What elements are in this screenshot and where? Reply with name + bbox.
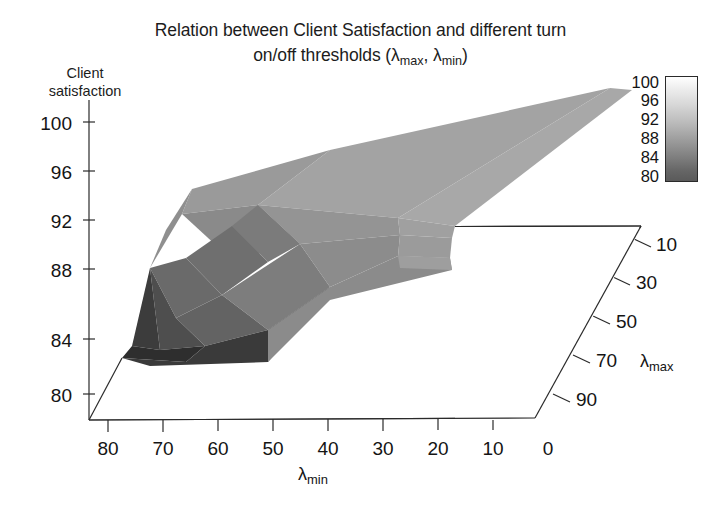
colorbar-tick-label-80: 80 [619, 167, 659, 186]
surface-plot-figure: Relation between Client Satisfaction and… [0, 0, 721, 512]
y-tick-label-10: 10 [656, 234, 677, 256]
colorbar-tick-label-84: 84 [619, 148, 659, 167]
x-tick-label-30: 30 [363, 438, 403, 460]
x-tick-label-40: 40 [308, 438, 348, 460]
y-axis-title: λmax [640, 351, 673, 374]
z-tick-label-92: 92 [20, 211, 72, 233]
plot-canvas [0, 0, 721, 512]
z-tick-label-100: 100 [20, 113, 72, 135]
x-tick-label-0: 0 [528, 438, 568, 460]
x-tick-label-10: 10 [473, 438, 513, 460]
x-tick-label-70: 70 [143, 438, 183, 460]
colorbar-gradient [665, 76, 698, 182]
z-tick-label-88: 88 [20, 260, 72, 282]
surface-facet-ridge-upper [150, 189, 192, 268]
x-tick-label-50: 50 [253, 438, 293, 460]
base-left-diagonal [89, 358, 122, 420]
y-axis-lambda-subscript: max [649, 359, 673, 374]
x-axis-lambda-subscript: min [307, 472, 328, 487]
colorbar-tick-label-100: 100 [619, 73, 659, 92]
x-tick-label-80: 80 [88, 438, 128, 460]
surface-facet-front-right [398, 235, 452, 258]
y-tick-label-50: 50 [616, 311, 637, 333]
z-tick-label-84: 84 [20, 330, 72, 352]
surface-facet-rim-right [398, 256, 452, 270]
y-tick-50 [593, 316, 610, 324]
x-tick-label-20: 20 [418, 438, 458, 460]
y-tick-70 [573, 355, 590, 363]
x-axis-title: λmin [298, 464, 328, 487]
y-tick-90 [553, 394, 570, 402]
colorbar-tick-label-88: 88 [619, 129, 659, 148]
base-clear-mask [455, 228, 641, 420]
y-axis-lambda-symbol: λ [640, 351, 649, 371]
z-tick-label-96: 96 [20, 162, 72, 184]
y-tick-10 [634, 239, 651, 247]
base-back-edge-overlay [455, 226, 641, 227]
x-axis-lambda-symbol: λ [298, 464, 307, 484]
x-tick-label-60: 60 [198, 438, 238, 460]
y-tick-label-70: 70 [596, 350, 617, 372]
y-tick-30 [613, 277, 630, 285]
y-tick-label-30: 30 [636, 272, 657, 294]
y-tick-label-90: 90 [576, 389, 597, 411]
z-tick-label-80: 80 [20, 385, 72, 407]
colorbar-tick-label-92: 92 [619, 110, 659, 129]
colorbar-tick-label-96: 96 [619, 91, 659, 110]
